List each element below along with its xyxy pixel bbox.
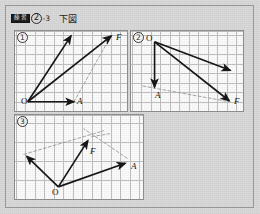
screenshot-root: 練習 2 -3 下図 1 OAF 2 OAF 3 OFA xyxy=(0,0,260,214)
point-label-a: A xyxy=(77,97,83,106)
problem-sub-number: -3 xyxy=(43,14,50,23)
point-label-f: F xyxy=(90,147,96,156)
vector-OF xyxy=(28,36,111,102)
vector-diagram-1 xyxy=(15,31,127,112)
point-label-a: A xyxy=(131,162,137,171)
vector-diagram-2 xyxy=(131,31,243,112)
point-label-f: F xyxy=(116,33,122,42)
vector-O-upleft xyxy=(27,156,59,187)
vector-OA xyxy=(58,163,125,187)
point-label-f: F xyxy=(234,97,240,106)
vector-OF xyxy=(58,141,88,187)
vector-O-right xyxy=(155,42,231,70)
point-label-o: O xyxy=(146,34,153,43)
panel-number-2: 2 xyxy=(133,32,144,43)
vector-O-up xyxy=(28,36,71,102)
dashed-guide-extension-short xyxy=(92,134,110,137)
instruction-text: 下図 xyxy=(59,12,78,25)
panel-number-1: 1 xyxy=(17,32,28,43)
vector-diagram-3 xyxy=(15,115,143,200)
problem-number-circle: 2 xyxy=(31,13,42,24)
dashed-guide-parallel-A-to-F xyxy=(74,39,109,102)
figure-panel-2: 2 OAF xyxy=(130,30,244,112)
point-label-o: O xyxy=(52,188,59,197)
vector-OF xyxy=(155,42,230,101)
figure-panel-3: 3 OFA xyxy=(14,114,144,200)
figure-panel-1: 1 OAF xyxy=(14,30,128,112)
practice-badge: 練習 xyxy=(11,14,30,23)
panel-number-3: 3 xyxy=(17,116,28,127)
problem-header: 練習 2 -3 下図 xyxy=(11,11,78,25)
point-label-a: A xyxy=(155,91,161,100)
point-label-o: O xyxy=(21,97,28,106)
